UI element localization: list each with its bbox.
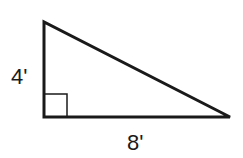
base-label: 8'	[127, 130, 143, 155]
right-angle-marker	[44, 94, 67, 117]
right-triangle-diagram: 4' 8'	[0, 0, 243, 158]
height-label: 4'	[11, 64, 27, 89]
triangle	[44, 22, 230, 117]
